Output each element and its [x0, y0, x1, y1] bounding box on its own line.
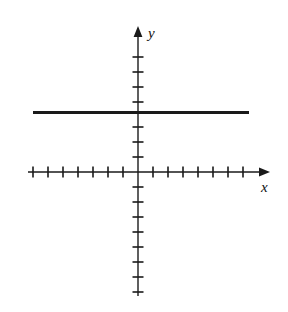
x-axis-arrowhead	[259, 168, 270, 177]
x-axis-label: x	[261, 180, 268, 195]
coordinate-plane-figure: y x	[0, 0, 288, 312]
y-axis-label: y	[148, 26, 155, 41]
y-axis-group	[134, 26, 143, 296]
x-axis-group	[28, 168, 270, 177]
y-axis-arrowhead	[134, 26, 143, 37]
graph-canvas	[0, 0, 288, 312]
